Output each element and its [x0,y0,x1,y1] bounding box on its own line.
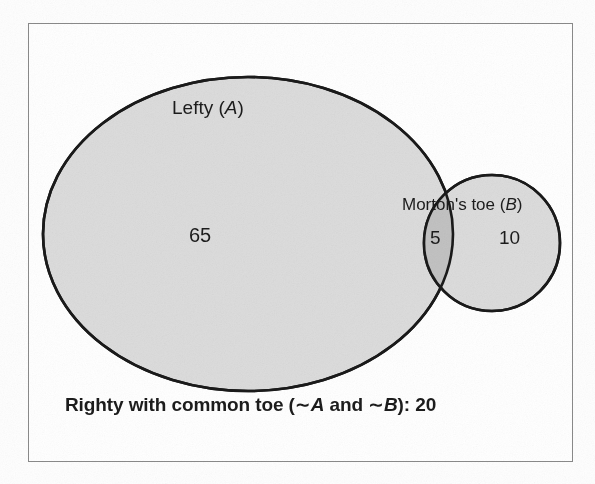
count-a-only: 65 [189,225,211,245]
count-intersection: 5 [430,228,441,247]
count-b-only: 10 [499,228,520,247]
set-a-ellipse [43,77,453,391]
set-b-label: Morton's toe (B) [402,196,522,213]
set-a-label: Lefty (A) [172,98,244,117]
outside-region-caption: Righty with common toe (∼A and ∼B): 20 [65,395,436,414]
venn-diagram-figure: Lefty (A) Morton's toe (B) 65 5 10 Right… [0,0,595,484]
